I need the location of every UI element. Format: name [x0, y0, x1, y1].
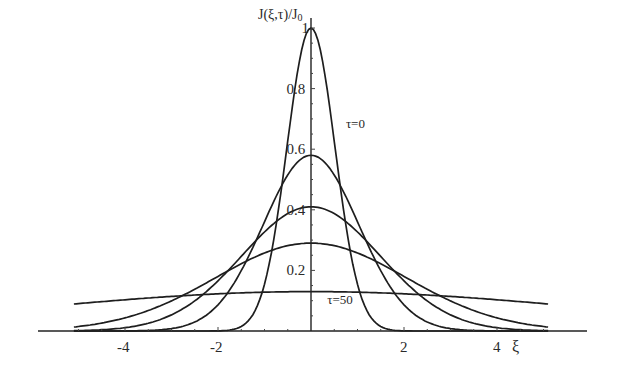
x-tick-label: 4: [493, 339, 501, 355]
y-tick-label: 0.4: [287, 202, 306, 218]
x-tick-label: -2: [210, 339, 223, 355]
y-tick-label: 0.6: [287, 141, 306, 157]
y-tick-label: 0.2: [287, 262, 306, 278]
x-tick-label: 2: [400, 339, 408, 355]
y-tick-label: 1: [302, 20, 310, 36]
annotation-label: τ=0: [346, 116, 365, 131]
annotation-label: τ=50: [327, 292, 353, 307]
x-axis-title: ξ: [512, 338, 519, 355]
y-tick-label: 0.8: [287, 81, 306, 97]
x-tick-label: -4: [117, 339, 130, 355]
y-axis-title: J(ξ,τ)/J0: [258, 7, 302, 23]
annotations: τ=0τ=50: [327, 116, 365, 307]
chart: -4-224 0.20.40.60.81 J(ξ,τ)/J0 ξ τ=0τ=50: [0, 0, 617, 377]
